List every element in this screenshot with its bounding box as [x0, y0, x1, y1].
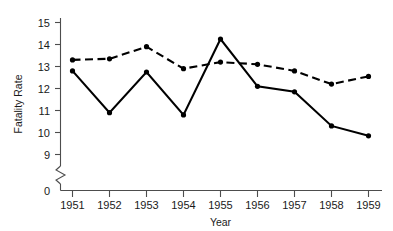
y-tick-label-9: 9	[44, 149, 50, 161]
dashed-line-series-point-1951	[70, 57, 75, 62]
x-tick-label-1956: 1956	[245, 199, 269, 211]
dashed-line-series-point-1955	[218, 60, 223, 65]
x-tick-label-1954: 1954	[171, 199, 195, 211]
dashed-line-series-path	[73, 47, 369, 84]
y-axis-break-icon	[56, 166, 65, 184]
y-tick-label-0: 0	[44, 185, 50, 197]
y-tick-label-10: 10	[38, 127, 50, 139]
dashed-line-series-point-1954	[181, 66, 186, 71]
series-layer	[70, 36, 371, 138]
x-tick-label-1951: 1951	[60, 199, 84, 211]
solid-line-series-point-1951	[70, 68, 75, 73]
solid-line-series-point-1957	[292, 89, 297, 94]
solid-line-series-point-1956	[255, 84, 260, 89]
solid-line-series-path	[73, 39, 369, 136]
line-chart: 15 14 13 12 11 10 9 0 1951 1952 1953 195…	[0, 0, 393, 231]
solid-line-series-point-1954	[181, 112, 186, 117]
solid-line-series-point-1959	[366, 133, 371, 138]
x-tick-label-1952: 1952	[97, 199, 121, 211]
dashed-line-series-point-1959	[366, 74, 371, 79]
y-tick-label-14: 14	[38, 39, 50, 51]
dashed-line-series-point-1957	[292, 68, 297, 73]
y-tick-label-12: 12	[38, 83, 50, 95]
x-tick-label-1959: 1959	[356, 199, 380, 211]
dashed-line-series-point-1953	[144, 44, 149, 49]
chart-canvas: 15 14 13 12 11 10 9 0 1951 1952 1953 195…	[0, 0, 393, 231]
solid-line-series-point-1952	[107, 110, 112, 115]
x-tick-label-1957: 1957	[282, 199, 306, 211]
x-axis-title: Year	[210, 216, 232, 228]
x-tick-marks	[73, 191, 369, 198]
solid-line-series-point-1958	[329, 123, 334, 128]
x-tick-label-1955: 1955	[208, 199, 232, 211]
y-tick-marks	[55, 23, 61, 155]
x-tick-label-1953: 1953	[134, 199, 158, 211]
dashed-line-series-point-1952	[107, 56, 112, 61]
dashed-line-series-point-1956	[255, 62, 260, 67]
y-tick-label-11: 11	[39, 105, 50, 117]
y-axis-title: Fatality Rate	[12, 74, 24, 133]
y-tick-label-15: 15	[38, 17, 50, 29]
y-tick-label-13: 13	[38, 61, 50, 73]
solid-line-series-point-1955	[218, 36, 223, 41]
x-tick-label-1958: 1958	[319, 199, 343, 211]
dashed-line-series-point-1958	[329, 82, 334, 87]
solid-line-series-point-1953	[144, 69, 149, 74]
